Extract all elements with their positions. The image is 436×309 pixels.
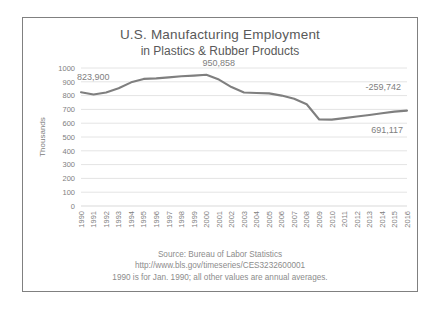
end-value-label: 691,117	[371, 125, 403, 135]
y-axis-tick-label: 700	[62, 105, 75, 114]
x-axis-tick-label: 2016	[403, 211, 412, 228]
x-axis-tick-label: 2006	[277, 211, 286, 228]
x-axis-tick-label: 1990	[77, 211, 86, 228]
x-axis-tick-label: 2010	[328, 211, 337, 228]
y-axis-title: Thousands	[38, 117, 47, 157]
y-axis-tick-label: 300	[62, 160, 75, 169]
y-axis-tick-label: 200	[62, 174, 75, 183]
start-value-label: 823,900	[77, 72, 110, 82]
y-axis-tick-label: 1000	[58, 64, 75, 73]
x-axis-tick-label: 2015	[390, 211, 399, 228]
x-axis-tick-label: 2005	[265, 211, 274, 228]
gridlines	[81, 68, 407, 206]
y-axis-tick-label: 500	[62, 133, 75, 142]
x-axis-tick-label: 2014	[378, 211, 387, 228]
y-axis-tick-label: 900	[62, 78, 75, 87]
y-axis-tick-labels: 10009008007006005004003002001000	[58, 64, 75, 211]
x-axis-tick-label: 2011	[340, 211, 349, 227]
footnote-block: Source: Bureau of Labor Statistics http:…	[23, 249, 417, 284]
x-axis-tick-label: 1998	[177, 211, 186, 228]
peak-value-label: 950,858	[202, 58, 235, 68]
x-axis-tick-label: 2002	[227, 211, 236, 228]
x-axis-tick-label: 1999	[190, 211, 199, 228]
x-axis-tick-label: 2009	[315, 211, 324, 228]
x-axis-tick-label: 1996	[152, 211, 161, 228]
x-axis-tick-label: 2004	[252, 211, 261, 228]
y-axis-tick-label: 800	[62, 91, 75, 100]
x-axis-tick-label: 2001	[215, 211, 224, 228]
y-axis-tick-label: 400	[62, 147, 75, 156]
x-axis-tick-labels: 1990199119921993199419951996199719981999…	[77, 211, 412, 228]
x-axis-tick-label: 1992	[102, 211, 111, 228]
y-axis-tick-label: 0	[71, 202, 75, 211]
footnote-note: 1990 is for Jan. 1990; all other values …	[23, 272, 417, 284]
x-axis-tick-label: 1997	[165, 211, 174, 228]
x-axis-tick-label: 2012	[353, 211, 362, 228]
x-axis-tick-label: 2008	[302, 211, 311, 228]
footnote-url: http://www.bls.gov/timeseries/CES3232600…	[23, 260, 417, 272]
x-axis-tick-label: 2000	[202, 211, 211, 228]
y-axis-tick-label: 600	[62, 119, 75, 128]
y-axis-tick-label: 100	[62, 188, 75, 197]
net-change-label: -259,742	[365, 82, 401, 92]
x-axis-tick-label: 1995	[139, 211, 148, 228]
x-axis-tick-label: 1994	[127, 211, 136, 228]
footnote-source: Source: Bureau of Labor Statistics	[23, 249, 417, 261]
x-axis-tick-label: 2003	[240, 211, 249, 228]
chart-container: U.S. Manufacturing Employment in Plastic…	[22, 17, 418, 292]
x-axis-tick-label: 2007	[290, 211, 299, 228]
x-axis-tick-label: 1993	[114, 211, 123, 228]
x-axis-tick-label: 2013	[365, 211, 374, 228]
x-axis-tick-label: 1991	[89, 211, 98, 228]
